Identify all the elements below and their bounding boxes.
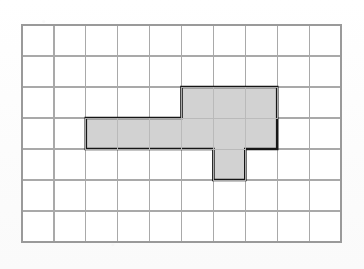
figure-page: A 10 by 7 square grid with one shaded po… [0, 0, 364, 269]
grid-figure: A 10 by 7 square grid with one shaded po… [0, 0, 364, 269]
